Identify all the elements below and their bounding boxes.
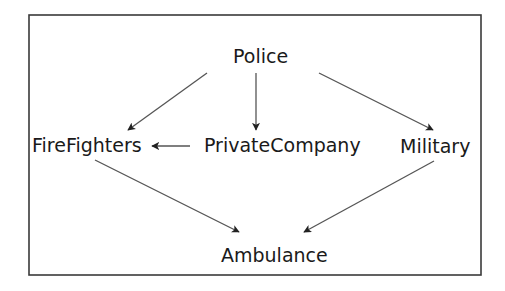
edge-police-to-firefighters [128,73,207,130]
edge-police-to-military [319,73,433,130]
node-military: Military [400,135,470,157]
diagram-canvas: Police FireFighters PrivateCompany Milit… [0,0,505,291]
node-police: Police [233,45,288,67]
edge-military-to-ambulance [304,161,434,232]
node-privatecompany: PrivateCompany [204,134,361,156]
node-ambulance: Ambulance [221,244,328,266]
edge-firefighters-to-ambulance [95,160,239,232]
node-firefighters: FireFighters [32,134,142,156]
